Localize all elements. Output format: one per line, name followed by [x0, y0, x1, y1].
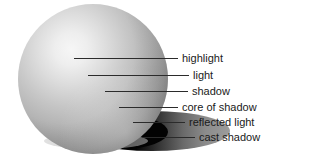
sphere-shape [18, 4, 168, 154]
label-core-of-shadow: core of shadow [182, 101, 257, 113]
sphere-shading-diagram: highlight light shadow core of shadow re… [0, 0, 334, 161]
label-cast-shadow: cast shadow [199, 131, 260, 143]
label-light: light [193, 69, 213, 81]
label-highlight: highlight [182, 52, 223, 64]
label-shadow: shadow [192, 85, 230, 97]
diagram-canvas: highlight light shadow core of shadow re… [0, 0, 334, 161]
label-reflected-light: reflected light [189, 116, 254, 128]
